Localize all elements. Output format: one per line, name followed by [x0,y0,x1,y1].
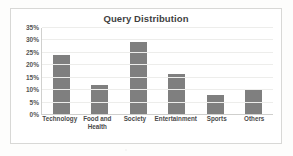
plot-area: 35%30%25%20%15%10%5%0% [41,28,273,115]
gridline: 5% [42,102,273,103]
gridline: 15% [42,77,273,78]
x-axis-category-label: Society [116,115,154,123]
gridline: 25% [42,52,273,53]
y-axis-tick-label: 15% [26,73,39,80]
gridline: 30% [42,39,273,40]
x-axis-category-label: Others [235,115,273,123]
y-axis-tick-label: 20% [26,61,39,68]
bar [168,74,185,115]
x-axis-category-label: Food and Health [79,115,117,131]
bar [245,90,262,115]
y-axis-tick-label: 25% [26,48,39,55]
x-axis-category-label: Entertainment [154,115,198,123]
x-axis-category-label: Technology [41,115,79,123]
x-axis-labels: TechnologyFood and HealthSocietyEntertai… [41,115,273,139]
x-axis-category-label: Sports [198,115,236,123]
y-axis-tick-label: 10% [26,86,39,93]
gridline: 20% [42,64,273,65]
gridline: 35% [42,27,273,28]
y-axis-tick-label: 0% [30,111,39,118]
chart-container: Query Distribution 35%30%25%20%15%10%5%0… [10,8,282,144]
gridline: 10% [42,89,273,90]
y-axis-tick-label: 30% [26,36,39,43]
y-axis-tick-label: 35% [26,24,39,31]
plot-wrapper: 35%30%25%20%15%10%5%0% [41,28,273,115]
bar [207,95,224,115]
y-axis-tick-label: 5% [30,98,39,105]
chart-title: Query Distribution [11,13,281,24]
